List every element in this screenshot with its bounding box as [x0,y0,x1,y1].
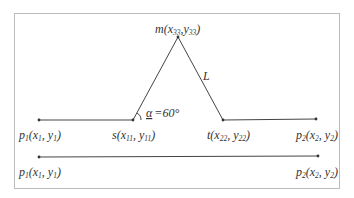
point-s [132,119,135,122]
point-p2 [315,118,318,121]
diagram-canvas: m(x33,y33) L α=60° p1(x1, y1) s(x11, y11… [0,0,354,198]
point-p1 [38,119,41,122]
point-t [222,119,225,122]
point-p1-lower [38,156,41,159]
label-L: L [202,69,210,83]
point-p2-lower [317,155,320,158]
label-angle: α=60° [146,106,179,120]
